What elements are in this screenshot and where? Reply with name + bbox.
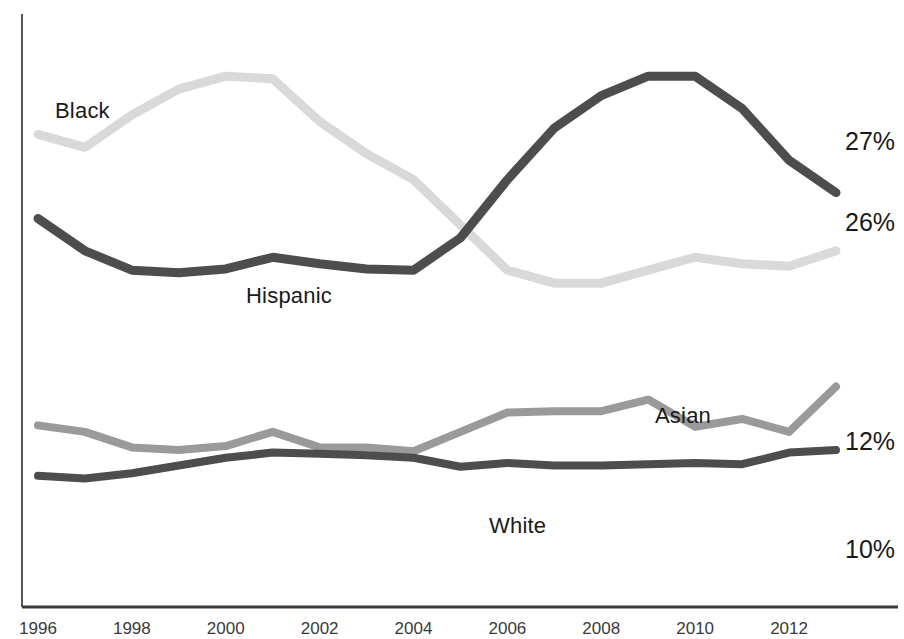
line-chart: Black Hispanic Asian White 27% 26% 12% 1… bbox=[0, 0, 904, 639]
end-value-asian: 12% bbox=[845, 427, 895, 456]
x-tick-2002: 2002 bbox=[301, 619, 339, 639]
series-label-white: White bbox=[489, 513, 546, 539]
x-tick-2008: 2008 bbox=[582, 619, 620, 639]
x-tick-2004: 2004 bbox=[395, 619, 433, 639]
x-tick-2012: 2012 bbox=[770, 619, 808, 639]
chart-plot-area bbox=[0, 0, 904, 639]
x-tick-1996: 1996 bbox=[19, 619, 57, 639]
end-value-black: 27% bbox=[845, 127, 895, 156]
end-value-hispanic: 26% bbox=[845, 208, 895, 237]
end-value-white: 10% bbox=[845, 535, 895, 564]
series-label-black: Black bbox=[55, 98, 110, 124]
series-label-asian: Asian bbox=[655, 403, 711, 429]
x-tick-2006: 2006 bbox=[488, 619, 526, 639]
series-line-white bbox=[38, 450, 836, 478]
series-label-hispanic: Hispanic bbox=[246, 283, 332, 309]
x-tick-1998: 1998 bbox=[113, 619, 151, 639]
x-tick-2000: 2000 bbox=[207, 619, 245, 639]
series-line-asian bbox=[38, 387, 836, 452]
x-tick-2010: 2010 bbox=[676, 619, 714, 639]
